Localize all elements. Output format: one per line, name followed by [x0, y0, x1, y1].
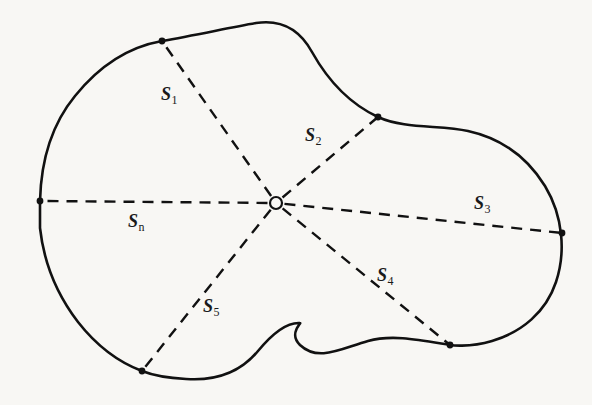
segment-symbol-s1: S: [161, 84, 171, 104]
segment-label-s1: S1: [161, 85, 178, 106]
radial-chord-sn: [40, 201, 268, 203]
segment-symbol-s5: S: [203, 296, 213, 316]
boundary-point-s5: [139, 368, 146, 375]
boundary-point-sn: [37, 198, 44, 205]
segment-label-s2: S2: [305, 126, 322, 147]
segment-label-s5: S5: [203, 297, 220, 318]
boundary-point-s2: [375, 114, 382, 121]
segment-subscript-s3: 3: [485, 202, 491, 216]
segment-subscript-s2: 2: [316, 134, 322, 148]
segment-symbol-s2: S: [305, 125, 315, 145]
segment-subscript-s4: 4: [388, 274, 394, 288]
segment-label-s3: S3: [474, 194, 491, 215]
segment-label-sn: Sn: [128, 212, 145, 233]
radial-chord-s2: [282, 117, 378, 198]
center-point-marker: [270, 197, 282, 209]
radial-chord-s5: [142, 210, 271, 371]
boundary-point-s1: [159, 38, 166, 45]
figure-container: S1S2S3S4S5Sn: [0, 0, 592, 405]
segment-subscript-s1: 1: [172, 93, 178, 107]
segment-label-s4: S4: [377, 266, 394, 287]
boundary-point-s3: [559, 230, 566, 237]
segment-subscript-sn: n: [139, 220, 145, 234]
radial-chord-s3: [284, 204, 562, 233]
segment-symbol-s4: S: [377, 265, 387, 285]
segment-subscript-s5: 5: [214, 305, 220, 319]
radial-chord-s1: [162, 41, 271, 196]
segment-symbol-sn: S: [128, 211, 138, 231]
figure-svg: [0, 0, 592, 405]
segment-symbol-s3: S: [474, 193, 484, 213]
radial-chord-s4: [283, 208, 450, 345]
boundary-point-s4: [447, 342, 454, 349]
